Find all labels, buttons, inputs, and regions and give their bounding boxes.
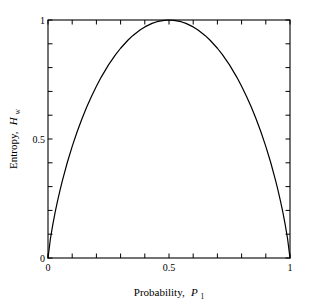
x-axis-title-subscript: 1	[200, 292, 204, 301]
y-tick-label-1: 1	[40, 15, 45, 26]
x-tick-label-0: 0	[46, 262, 51, 273]
x-axis-title-variable: P	[190, 286, 198, 298]
y-tick-label-0.5: 0.5	[33, 134, 46, 145]
x-tick-label-0.5: 0.5	[163, 262, 176, 273]
x-axis-title-text: Probability,	[134, 286, 185, 298]
chart-page: 0 0.5 1 0 0.5 1 Probability, P 1 Entropy…	[0, 0, 310, 308]
entropy-chart: 0 0.5 1 0 0.5 1 Probability, P 1 Entropy…	[0, 0, 310, 308]
y-axis-title-subscript: w	[13, 108, 22, 114]
y-axis-title-variable: H	[7, 116, 19, 126]
y-axis-title-text: Entropy,	[7, 131, 19, 169]
x-tick-label-1: 1	[288, 262, 293, 273]
y-tick-label-0: 0	[40, 253, 45, 264]
